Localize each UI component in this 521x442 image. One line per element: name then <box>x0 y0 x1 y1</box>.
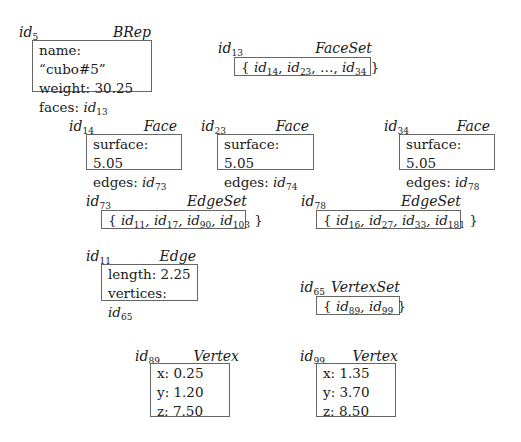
edgeset-73-object: id73EdgeSet <box>86 193 247 211</box>
face-14-box: surface: 5.05 edges: id73 <box>86 134 182 170</box>
vertexset-65-object: id65VertexSet <box>300 279 400 297</box>
face-23-box: surface: 5.05 edges: id74 <box>217 134 314 170</box>
vertex-89-box: x: 0.25 y: 1.20 z: 7.50 <box>150 363 230 417</box>
edgeset-73-box: { id11, id17, id90, id103 } <box>101 210 246 229</box>
name-row: name: “cubo#5” <box>39 41 145 79</box>
edgeset-78-object: id78EdgeSet <box>301 193 461 211</box>
faces-row: faces: id13 <box>39 98 145 117</box>
faceset-box: { id14, id23, …, id34 } <box>234 57 371 76</box>
brep-box: name: “cubo#5” weight: 30.25 faces: id13 <box>32 40 152 92</box>
faceset-object: id13FaceSet <box>218 40 372 58</box>
object-type: BRep <box>113 24 151 40</box>
object-id: id13 <box>218 40 243 56</box>
edgeset-78-box: { id16, id27, id33, id181 } <box>316 210 461 229</box>
face-34-box: surface: 5.05 edges: id78 <box>399 134 495 170</box>
object-id: id5 <box>19 24 38 40</box>
edge-11-box: length: 2.25 vertices: id65 <box>101 264 198 301</box>
object-type: FaceSet <box>315 40 372 56</box>
weight-row: weight: 30.25 <box>39 79 145 98</box>
vertex-99-box: x: 1.35 y: 3.70 z: 8.50 <box>316 363 396 417</box>
vertexset-65-box: { id89, id99 } <box>316 296 400 315</box>
